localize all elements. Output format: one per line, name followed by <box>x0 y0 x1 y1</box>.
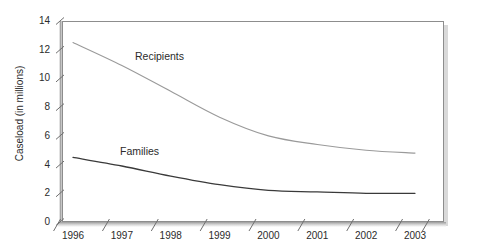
x-axis-tick-label: 2000 <box>248 231 288 241</box>
y-axis-tick-label: 6 <box>28 131 50 141</box>
x-axis-tick-label: 2001 <box>297 231 337 241</box>
chart-plot-area <box>0 0 478 251</box>
x-axis-tick <box>200 219 207 231</box>
y-axis-tick <box>56 104 64 111</box>
x-axis-tick-label: 1996 <box>53 231 93 241</box>
x-axis-tick-label: 2003 <box>395 231 435 241</box>
x-axis-tick-label: 1998 <box>151 231 191 241</box>
series-line-families <box>73 157 415 193</box>
x-axis-tick <box>102 219 109 231</box>
x-axis-tick-label: 1997 <box>102 231 142 241</box>
y-axis-tick <box>56 46 64 53</box>
series-label-families: Families <box>120 145 159 157</box>
x-axis-tick-label: 1999 <box>200 231 240 241</box>
x-axis-tick <box>54 219 61 231</box>
y-axis-tick-label: 4 <box>28 160 50 170</box>
y-axis-tick-label: 0 <box>28 217 50 227</box>
y-axis-tick-label: 2 <box>28 188 50 198</box>
series-line-recipients <box>73 43 415 154</box>
y-axis-tick <box>56 132 64 139</box>
x-axis-tick <box>396 219 403 231</box>
series-label-recipients: Recipients <box>135 50 184 62</box>
x-axis-tick <box>298 219 305 231</box>
chart-figure: 02468101214 1996199719981999200020012002… <box>0 0 478 251</box>
x-axis-tick-label: 2002 <box>346 231 386 241</box>
y-axis-tick <box>56 18 64 25</box>
y-axis-tick-label: 8 <box>28 102 50 112</box>
y-axis-tick <box>56 190 64 197</box>
y-axis-tick <box>56 161 64 168</box>
y-axis-tick <box>56 75 64 82</box>
x-axis-tick <box>249 219 256 231</box>
y-axis-tick-marks <box>56 18 64 226</box>
y-axis-tick-label: 10 <box>28 73 50 83</box>
y-axis-tick-label: 12 <box>28 45 50 55</box>
y-axis-title: Caseload (in millions) <box>14 39 25 189</box>
x-axis-tick <box>347 219 354 231</box>
x-axis-tick <box>151 219 158 231</box>
y-axis-tick-label: 14 <box>28 16 50 26</box>
